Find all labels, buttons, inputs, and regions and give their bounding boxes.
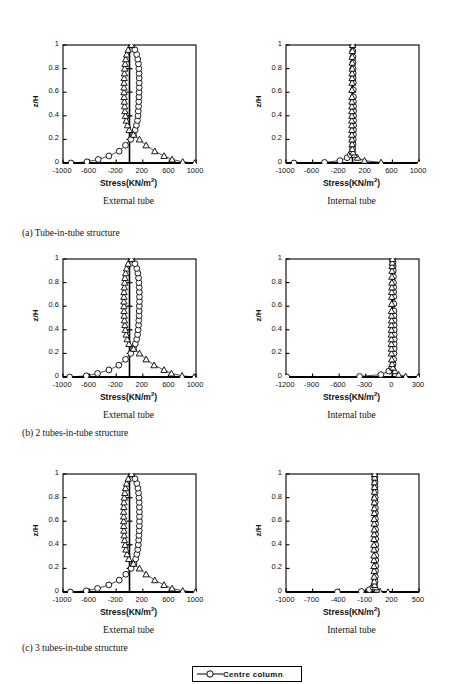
circle-marker (106, 582, 112, 588)
y-tick-label: 0.2 (263, 562, 282, 571)
x-axis-label-tail: ) (154, 607, 157, 617)
y-tick-label: 0.4 (40, 110, 59, 119)
circle-marker (95, 157, 101, 163)
circle-marker (335, 589, 341, 593)
chart-b-external: 00.20.40.60.81z/H-1000-600-2002006001000… (62, 258, 197, 378)
circle-marker (358, 589, 364, 593)
series-line-centre-column (294, 45, 354, 163)
plot-area-b-internal (285, 258, 420, 378)
subcaption-a-external: External tube (60, 196, 197, 206)
triangle-marker (136, 565, 142, 571)
x-axis-label: Stress(KN/m2) (285, 391, 418, 402)
x-axis-label-tail: ) (377, 392, 380, 402)
y-tick-label: 0.2 (40, 347, 59, 356)
x-axis-label: Stress(KN/m2) (62, 606, 195, 617)
x-axis-label-main: Stress(KN/m (100, 178, 151, 188)
triangle-marker (168, 370, 174, 376)
series-line-tube-column (124, 474, 196, 592)
x-axis-label: Stress(KN/m2) (285, 177, 418, 188)
y-axis-label: z/H (31, 514, 40, 548)
circle-marker (123, 356, 129, 362)
y-tick-label: 0 (40, 157, 59, 166)
circle-marker (378, 372, 384, 378)
y-axis-label: z/H (254, 299, 263, 333)
y-tick-label: 0.6 (40, 300, 59, 309)
subcaption-c-external: External tube (60, 625, 197, 635)
caption-b: (b) 2 tubes-in-tube structure (22, 428, 128, 438)
circle-marker (123, 142, 129, 148)
y-tick-label: 1 (40, 468, 59, 477)
triangle-marker (161, 582, 167, 588)
x-axis-label-main: Stress(KN/m (323, 607, 374, 617)
y-tick-label: 0.8 (263, 492, 282, 501)
chart-c-external: 00.20.40.60.81z/H-1000-600-2002006001000… (62, 473, 197, 593)
x-tick-label: 500 (400, 595, 436, 604)
triangle-marker (161, 367, 167, 373)
x-axis-label: Stress(KN/m2) (62, 177, 195, 188)
y-tick-label: 0.6 (263, 86, 282, 95)
plot-frame (286, 474, 419, 592)
y-tick-label: 1 (263, 253, 282, 262)
y-tick-label: 0.8 (40, 277, 59, 286)
x-tick-label: 1000 (177, 595, 213, 604)
x-axis-label-tail: ) (377, 607, 380, 617)
y-tick-label: 0.6 (263, 515, 282, 524)
subcaption-b-external: External tube (60, 410, 197, 420)
y-tick-label: 0.4 (263, 324, 282, 333)
y-tick-label: 0.2 (263, 347, 282, 356)
y-tick-label: 0.6 (40, 86, 59, 95)
y-tick-label: 0.8 (263, 277, 282, 286)
x-axis-label-tail: ) (377, 178, 380, 188)
chart-c-internal: 00.20.40.60.81z/H-1000-700-400-100200500… (285, 473, 420, 593)
y-tick-label: 0.8 (40, 63, 59, 72)
x-axis-label-main: Stress(KN/m (100, 392, 151, 402)
plot-area-a-internal (285, 44, 420, 164)
plot-frame (286, 259, 419, 377)
series-line-tube-column (124, 259, 194, 377)
triangle-marker (169, 585, 175, 591)
x-tick-label: 1000 (177, 166, 213, 175)
x-axis-label-tail: ) (154, 178, 157, 188)
y-tick-label: 0.6 (40, 515, 59, 524)
circle-marker (95, 371, 101, 377)
x-axis-label-tail: ) (154, 392, 157, 402)
chart-a-internal: 00.20.40.60.81z/H-1000-600-2002006001000… (285, 44, 420, 164)
circle-marker (291, 160, 297, 164)
series-line-tube-column (352, 45, 419, 163)
legend-label-centre-column: Centre column (223, 670, 283, 679)
y-axis-label: z/H (254, 514, 263, 548)
circle-marker (83, 588, 89, 593)
triangle-marker (385, 589, 391, 593)
plot-area-a-external (62, 44, 197, 164)
y-tick-label: 0.4 (263, 110, 282, 119)
stress-distribution-figure: 00.20.40.60.81z/H-1000-600-2002006001000… (0, 0, 466, 684)
y-tick-label: 0 (40, 371, 59, 380)
subcaption-b-internal: Internal tube (283, 410, 420, 420)
y-tick-label: 0.4 (40, 324, 59, 333)
x-axis-label-main: Stress(KN/m (100, 607, 151, 617)
y-axis-label: z/H (254, 85, 263, 119)
y-tick-label: 0 (263, 586, 282, 595)
circle-marker (285, 374, 290, 378)
circle-marker (337, 158, 343, 164)
y-tick-label: 0.2 (40, 562, 59, 571)
series-line-centre-column (287, 259, 394, 377)
triangle-marker (161, 153, 167, 159)
y-tick-label: 0.8 (263, 63, 282, 72)
triangle-marker (378, 159, 384, 164)
y-axis-label: z/H (31, 299, 40, 333)
circle-marker (123, 571, 129, 577)
triangle-marker (136, 350, 142, 356)
y-tick-label: 0.2 (40, 133, 59, 142)
chart-a-external: 00.20.40.60.81z/H-1000-600-2002006001000… (62, 44, 197, 164)
plot-area-c-external (62, 473, 197, 593)
y-tick-label: 1 (40, 253, 59, 262)
circle-marker (116, 362, 122, 368)
y-tick-label: 0.4 (263, 539, 282, 548)
y-tick-label: 0 (40, 586, 59, 595)
x-tick-label: 1000 (177, 380, 213, 389)
x-tick-label: 300 (400, 380, 436, 389)
x-tick-label: 1000 (400, 166, 436, 175)
caption-c: (c) 3 tubes-in-tube structure (22, 643, 128, 653)
plot-area-c-internal (285, 473, 420, 593)
